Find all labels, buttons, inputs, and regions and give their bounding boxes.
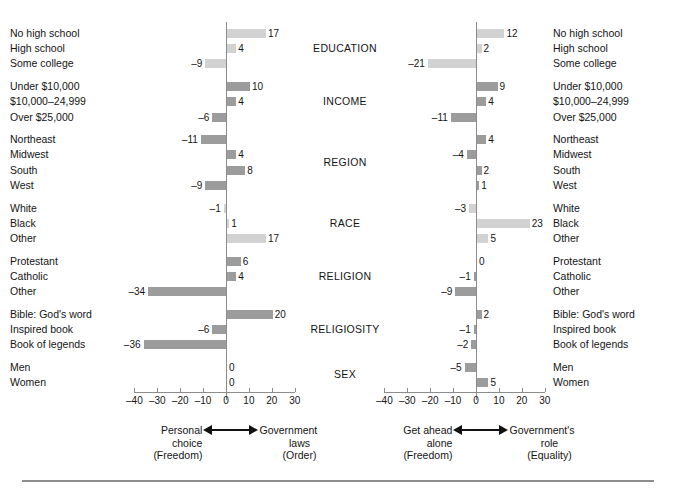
bar-education-2-panel1	[205, 59, 226, 68]
bar-value-income-0-panel2: 9	[500, 82, 506, 92]
caption-right-panel-1: Governmentlaws(Order)	[259, 424, 339, 462]
x-ticklabel-1-7: 30	[281, 396, 309, 406]
x-axis-panel-2	[384, 392, 544, 393]
bar-value-region-0-panel1: –11	[161, 135, 198, 145]
bar-value-religiosity-0-panel2: 2	[484, 310, 490, 320]
group-label-religion: RELIGION	[300, 271, 390, 282]
bar-value-race-1-panel2: 23	[532, 219, 543, 229]
row-label-right: $10,000–24,999	[553, 96, 629, 107]
row-label-right: Women	[553, 377, 589, 388]
bar-value-income-1-panel2: 4	[488, 97, 494, 107]
row-label-right: Bible: God's word	[553, 309, 635, 320]
bar-income-1-panel2	[477, 97, 486, 106]
bar-value-sex-1-panel1: 0	[229, 378, 235, 388]
row-label-left: Bible: God's word	[10, 309, 130, 320]
x-tick-1-1	[157, 388, 158, 392]
row-label-right: Over $25,000	[553, 112, 617, 123]
zero-line-panel-2	[476, 22, 477, 400]
bar-education-0-panel2	[477, 29, 504, 38]
bar-value-race-0-panel2: –3	[429, 204, 466, 214]
x-tick-1-0	[134, 388, 135, 392]
bar-region-3-panel1	[205, 181, 226, 190]
row-label-left: High school	[10, 43, 130, 54]
bar-race-1-panel2	[477, 219, 530, 228]
row-label-right: South	[553, 165, 580, 176]
bar-race-2-panel2	[477, 234, 488, 243]
footer-rule	[22, 480, 654, 482]
x-tick-2-2	[430, 388, 431, 392]
row-label-left: Under $10,000	[10, 81, 130, 92]
row-label-left: Men	[10, 362, 130, 373]
row-label-right: Black	[553, 218, 579, 229]
row-label-left: South	[10, 165, 130, 176]
bar-value-income-2-panel2: –11	[411, 113, 448, 123]
x-ticklabel-2-7: 30	[531, 396, 559, 406]
bar-race-0-panel1	[224, 204, 226, 213]
bar-race-0-panel2	[469, 204, 476, 213]
bar-religion-2-panel2	[455, 287, 476, 296]
bar-value-religion-1-panel1: 4	[238, 272, 244, 282]
row-label-right: Catholic	[553, 271, 591, 282]
bar-value-region-3-panel2: 1	[481, 181, 487, 191]
bar-value-race-1-panel1: 1	[231, 219, 237, 229]
row-label-left: Other	[10, 233, 130, 244]
bar-value-education-0-panel1: 17	[268, 29, 279, 39]
bar-value-education-2-panel2: –21	[388, 59, 425, 69]
row-label-right: Other	[553, 286, 579, 297]
bar-value-region-2-panel2: 2	[484, 166, 490, 176]
x-tick-1-3	[203, 388, 204, 392]
bar-value-region-0-panel2: 4	[488, 135, 494, 145]
row-label-right: Some college	[553, 58, 617, 69]
bar-education-2-panel2	[428, 59, 476, 68]
row-label-left: Protestant	[10, 256, 130, 267]
row-label-left: Over $25,000	[10, 112, 130, 123]
bar-religiosity-2-panel1	[144, 340, 226, 349]
bar-value-religiosity-0-panel1: 20	[275, 310, 286, 320]
bar-value-region-1-panel1: 4	[238, 150, 244, 160]
bar-region-1-panel2	[467, 150, 476, 159]
bar-income-1-panel1	[227, 97, 236, 106]
row-label-left: Midwest	[10, 149, 130, 160]
group-label-income: INCOME	[300, 96, 390, 107]
row-label-left: Catholic	[10, 271, 130, 282]
row-label-right: Inspired book	[553, 324, 616, 335]
row-label-left: Black	[10, 218, 130, 229]
bar-value-religiosity-2-panel1: –36	[104, 340, 141, 350]
row-label-right: West	[553, 180, 577, 191]
bar-income-2-panel2	[451, 113, 476, 122]
bar-income-0-panel1	[227, 82, 250, 91]
bar-religiosity-2-panel2	[471, 340, 476, 349]
bar-region-0-panel1	[201, 135, 226, 144]
row-label-left: White	[10, 203, 130, 214]
bar-value-religiosity-1-panel1: –6	[172, 325, 209, 335]
bar-value-religiosity-2-panel2: –2	[431, 340, 468, 350]
row-label-right: High school	[553, 43, 608, 54]
row-label-right: No high school	[553, 28, 622, 39]
row-label-right: Protestant	[553, 256, 601, 267]
bar-region-2-panel1	[227, 166, 245, 175]
bar-religion-1-panel1	[227, 272, 236, 281]
x-tick-2-7	[545, 388, 546, 392]
bar-religion-2-panel1	[148, 287, 226, 296]
x-tick-2-3	[453, 388, 454, 392]
row-label-left: $10,000–24,999	[10, 96, 130, 107]
caption-left-panel-1: Personalchoice(Freedom)	[124, 424, 202, 462]
bar-region-1-panel1	[227, 150, 236, 159]
bar-religiosity-0-panel1	[227, 310, 273, 319]
bar-value-religion-0-panel1: 6	[243, 257, 249, 267]
bar-value-race-2-panel1: 17	[268, 234, 279, 244]
bar-value-sex-0-panel2: –5	[425, 363, 462, 373]
caption-arrow-left-panel-1	[203, 425, 212, 435]
bar-value-race-2-panel2: 5	[490, 234, 496, 244]
group-label-education: EDUCATION	[300, 43, 390, 54]
bar-sex-0-panel2	[465, 363, 476, 372]
bar-value-income-1-panel1: 4	[238, 97, 244, 107]
bar-value-region-2-panel1: 8	[247, 166, 253, 176]
x-tick-1-4	[226, 388, 227, 392]
x-axis-panel-1	[134, 392, 294, 393]
x-tick-1-5	[249, 388, 250, 392]
bar-value-region-1-panel2: –4	[427, 150, 464, 160]
bar-income-2-panel1	[212, 113, 226, 122]
bar-religiosity-1-panel2	[474, 325, 476, 334]
bar-sex-1-panel2	[477, 378, 488, 387]
